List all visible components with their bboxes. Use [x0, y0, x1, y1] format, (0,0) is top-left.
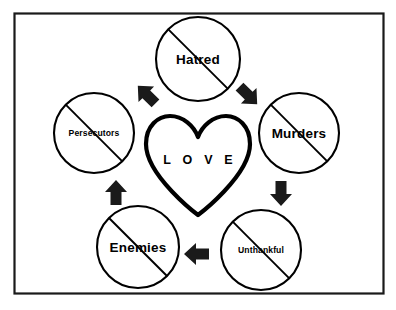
node-circle-murders[interactable] [259, 93, 339, 173]
node-circle-persecutors[interactable] [54, 93, 134, 173]
node-circle-unthankful[interactable] [221, 210, 301, 290]
center-label-love: L O V E [159, 153, 237, 167]
diagram-canvas: Hatred Murders Unthankful Enemies Persec… [0, 0, 396, 310]
node-circle-enemies[interactable] [97, 206, 179, 288]
node-circle-hatred[interactable] [156, 17, 240, 101]
